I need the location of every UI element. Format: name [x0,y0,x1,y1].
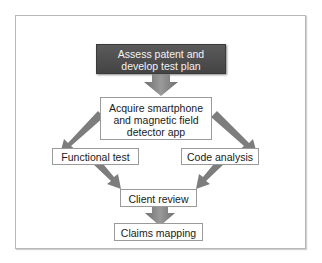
node-code-label: Code analysis [187,151,253,163]
node-functional-label: Functional test [61,151,129,163]
node-acquire-line1: Acquire smartphone [101,102,211,114]
node-claims-mapping: Claims mapping [114,223,203,241]
node-acquire-line3: detector app [101,126,211,138]
node-functional-test: Functional test [52,148,139,165]
node-acquire-line2: and magnetic field [101,114,211,126]
node-claims-label: Claims mapping [121,227,196,239]
node-code-analysis: Code analysis [181,148,259,165]
node-assess-line1: Assess patent and [97,48,225,60]
node-assess-patent: Assess patent and develop test plan [96,44,226,74]
node-acquire-smartphone: Acquire smartphone and magnetic field de… [100,97,212,140]
node-review-label: Client review [128,193,188,205]
arrow-assess-to-acquire [144,73,178,96]
node-client-review: Client review [120,189,197,207]
node-assess-line2: develop test plan [97,60,225,72]
